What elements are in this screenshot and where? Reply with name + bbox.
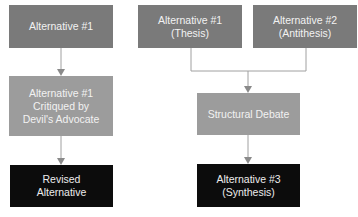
box-revised-alternative: Revised Alternative (10, 165, 113, 207)
box-antithesis: Alternative #2 (Antithesis) (253, 5, 357, 48)
box-thesis: Alternative #1 (Thesis) (138, 5, 242, 48)
box-label: Structural Debate (208, 108, 290, 121)
box-critiqued-by-devils-advocate: Alternative #1 Critiqued by Devil's Advo… (9, 76, 113, 136)
box-label: Alternative #3 (Synthesis) (216, 173, 280, 199)
box-label: Alternative #2 (Antithesis) (273, 14, 337, 40)
arrow-left-1 (57, 48, 65, 76)
box-label: Revised Alternative (37, 173, 87, 199)
merge-connector (191, 48, 306, 93)
box-synthesis: Alternative #3 (Synthesis) (197, 164, 300, 207)
box-alternative-1: Alternative #1 (9, 5, 113, 48)
box-structural-debate: Structural Debate (197, 93, 300, 135)
box-label: Alternative #1 (Thesis) (158, 14, 222, 40)
arrow-left-2 (57, 136, 65, 165)
arrow-right-2 (244, 135, 252, 164)
box-label: Alternative #1 Critiqued by Devil's Advo… (23, 87, 100, 126)
box-label: Alternative #1 (29, 20, 93, 33)
